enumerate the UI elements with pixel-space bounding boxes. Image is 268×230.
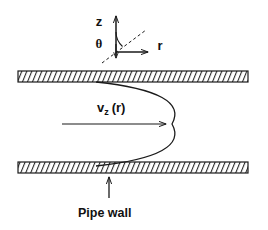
theta-arc [116, 32, 123, 47]
top-pipe-wall [18, 71, 248, 82]
pipe-flow-diagram: z r θ vz(r) Pipe wall [0, 0, 268, 230]
theta-angle-label: θ [96, 36, 103, 51]
velocity-profile-group: vz(r) [62, 82, 175, 166]
pipe-wall-annotation-group: Pipe wall [78, 177, 132, 220]
bottom-pipe-wall [18, 162, 248, 173]
pipe-wall-caption: Pipe wall [78, 206, 132, 220]
diagram-canvas: z r θ vz(r) Pipe wall [0, 0, 268, 230]
theta-reference-dashed-line [102, 30, 146, 63]
z-axis-label: z [96, 14, 103, 29]
pipe-walls-group [18, 71, 248, 173]
velocity-profile-label: vz(r) [97, 100, 125, 117]
velocity-subscript-z: z [104, 107, 109, 117]
r-axis-label: r [157, 38, 162, 53]
coordinate-axes-group: z r θ [96, 14, 163, 63]
velocity-argument: (r) [112, 100, 126, 115]
